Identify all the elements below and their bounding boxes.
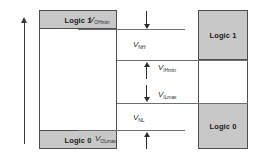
voltage-axis-line — [24, 22, 25, 144]
level-line-vohmin — [78, 29, 185, 30]
receiver-logic0-label: Logic 0 — [199, 122, 247, 131]
label-vnl-subscript: NL — [138, 117, 144, 123]
receiver-logic1-box: Logic 1 — [198, 10, 248, 60]
receiver-transition-region — [198, 60, 248, 103]
label-vihmin: VIHmin — [158, 64, 176, 72]
label-vnl: VNL — [133, 114, 145, 122]
logic-level-diagram: Logic 1 Logic 0 Logic 1 Logic 0 VOHmin V… — [0, 0, 256, 161]
label-vilmax-subscript: ILmax — [163, 94, 176, 100]
label-volmax: VOLmax — [95, 135, 116, 143]
label-vnh: VNH — [133, 41, 145, 49]
label-volmax-subscript: OLmax — [100, 138, 116, 144]
receiver-logic0-box: Logic 0 — [198, 103, 248, 149]
volmax-arrow-head-up — [144, 132, 150, 137]
vihmin-arrow-shaft — [146, 66, 147, 79]
label-vohmin: VOHmin — [89, 16, 109, 24]
vilmax-arrow-head-down — [144, 97, 150, 102]
level-line-volmax — [78, 130, 185, 131]
label-vilmax: VILmax — [158, 91, 176, 99]
vohmin-arrow-head-down — [144, 24, 150, 29]
label-vohmin-subscript: OHmin — [94, 19, 109, 25]
vohmin-arrow-shaft — [146, 11, 147, 25]
driver-transition-region — [39, 29, 117, 130]
vihmin-arrow-head-up — [144, 62, 150, 67]
label-vnh-subscript: NH — [138, 44, 145, 50]
level-line-vihmin — [117, 60, 248, 61]
receiver-logic1-label: Logic 1 — [199, 31, 247, 40]
label-vihmin-subscript: IHmin — [163, 67, 176, 73]
level-line-vilmax — [117, 103, 248, 104]
volmax-arrow-shaft — [146, 136, 147, 149]
